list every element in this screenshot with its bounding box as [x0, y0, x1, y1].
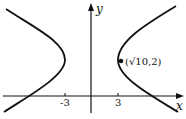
y-axis-label: y — [95, 2, 103, 16]
hyperbola-graph: (√10,2) -3 3 y x — [0, 0, 186, 119]
point-marker — [119, 59, 124, 64]
point-label: (√10,2) — [125, 56, 162, 67]
x-axis-label: x — [176, 99, 183, 113]
tick-label-3: 3 — [115, 97, 121, 108]
y-axis-arrow-icon — [88, 3, 94, 11]
tick-label-neg3: -3 — [60, 97, 70, 108]
